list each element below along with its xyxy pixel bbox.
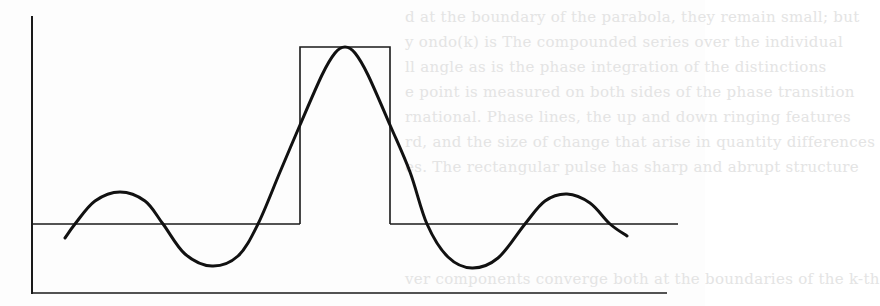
ringing-curve [65,47,627,268]
rect-pulse [300,47,390,224]
